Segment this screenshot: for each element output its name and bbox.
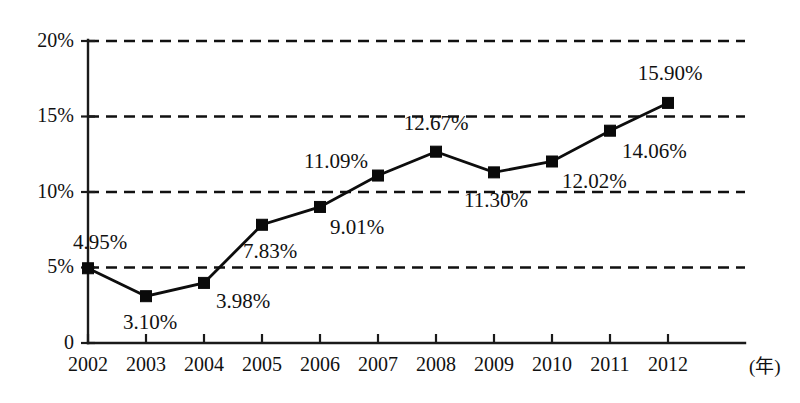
y-tick-label-10%: 10% (37, 180, 74, 202)
data-point-marker-2006 (315, 201, 326, 212)
x-tick-label-2007: 2007 (358, 353, 398, 375)
x-tick-label-2009: 2009 (474, 353, 514, 375)
data-value-label-2010: 12.02% (562, 169, 627, 193)
x-axis-unit-label-group: (年) (749, 356, 781, 378)
data-value-label-2004: 3.98% (216, 289, 270, 313)
data-point-marker-2002 (83, 263, 94, 274)
data-point-marker-2009 (489, 167, 500, 178)
x-tick-label-2008: 2008 (416, 353, 456, 375)
x-tick-label-2012: 2012 (648, 353, 688, 375)
x-tick-label-2011: 2011 (590, 353, 629, 375)
data-point-marker-2010 (547, 156, 558, 167)
data-value-label-2002: 4.95% (73, 230, 127, 254)
chart-canvas: 05%10%15%20% 200220032004200520062007200… (0, 0, 800, 403)
y-tick-label-20%: 20% (37, 29, 74, 51)
y-tick-label-15%: 15% (37, 104, 74, 126)
x-axis-tick-labels-group: 2002200320042005200620072008200920102011… (68, 353, 688, 375)
data-point-marker-2003 (141, 291, 152, 302)
data-point-marker-2011 (605, 125, 616, 136)
data-value-label-2009: 11.30% (464, 188, 528, 212)
x-tick-label-2010: 2010 (532, 353, 572, 375)
data-value-label-2011: 14.06% (622, 139, 687, 163)
data-value-label-2008: 12.67% (404, 111, 469, 135)
data-point-marker-2012 (663, 97, 674, 108)
x-tick-label-2005: 2005 (242, 353, 282, 375)
x-tick-label-2004: 2004 (184, 353, 224, 375)
data-value-label-2003: 3.10% (123, 310, 177, 334)
data-point-marker-2007 (373, 170, 384, 181)
x-tick-label-2002: 2002 (68, 353, 108, 375)
x-tick-label-2003: 2003 (126, 353, 166, 375)
data-value-label-2012: 15.90% (638, 61, 703, 85)
data-value-label-2006: 9.01% (330, 215, 384, 239)
line-chart-figure: 05%10%15%20% 200220032004200520062007200… (0, 0, 800, 403)
x-axis-unit-label: (年) (749, 356, 781, 378)
x-tick-label-2006: 2006 (300, 353, 340, 375)
data-point-marker-2008 (431, 146, 442, 157)
data-point-marker-2004 (199, 277, 210, 288)
data-point-marker-2005 (257, 219, 268, 230)
data-value-label-2007: 11.09% (304, 149, 368, 173)
data-value-label-2005: 7.83% (243, 239, 297, 263)
y-tick-label-5%: 5% (47, 255, 74, 277)
y-tick-label-0: 0 (64, 331, 74, 353)
